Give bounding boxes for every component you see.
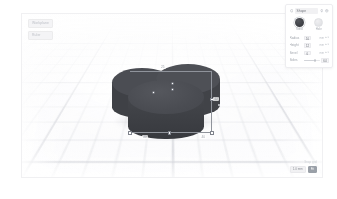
shape-icon bbox=[290, 9, 294, 13]
snap-unit-button[interactable]: 1.0 mm bbox=[290, 166, 306, 173]
param-input-height[interactable]: 12 bbox=[304, 43, 311, 48]
param-input-segments[interactable]: 64 bbox=[321, 58, 328, 63]
help-icon[interactable] bbox=[325, 9, 329, 13]
workplane-surface[interactable] bbox=[22, 14, 322, 20]
app-window: Workplane Ruler bbox=[0, 0, 337, 199]
param-row-radius: Radius 10 mm ▲▼ bbox=[290, 36, 329, 41]
param-unit-bevel: mm bbox=[320, 52, 324, 55]
swatch-hole-label: Hole bbox=[316, 28, 322, 32]
dimension-label-top[interactable]: 25 bbox=[160, 65, 166, 69]
rotate-handle-z[interactable] bbox=[171, 88, 174, 91]
swatch-hole[interactable]: Hole bbox=[310, 18, 327, 32]
viewport-hud-left: Workplane Ruler bbox=[28, 19, 53, 40]
panel-header: Shape bbox=[290, 8, 329, 14]
scale-handle-bottom-left[interactable] bbox=[128, 131, 131, 134]
hole-color-circle[interactable] bbox=[314, 18, 323, 27]
param-row-height: Height 12 mm ▲▼ bbox=[290, 43, 329, 48]
solid-hole-swatches: Solid Hole bbox=[290, 18, 329, 32]
param-input-bevel[interactable]: 0 bbox=[304, 51, 311, 56]
swatch-solid[interactable]: Solid bbox=[291, 18, 308, 32]
param-input-radius[interactable]: 10 bbox=[304, 36, 311, 41]
param-label-segments: Sides bbox=[290, 58, 303, 63]
dimension-label-bottom-left[interactable]: 40 bbox=[142, 135, 148, 139]
lightbulb-icon[interactable] bbox=[320, 9, 324, 13]
height-handle[interactable] bbox=[171, 82, 174, 85]
parameter-list: Radius 10 mm ▲▼ Height 12 mm ▲▼ Bevel 0 … bbox=[290, 36, 329, 64]
param-label-bevel: Bevel bbox=[290, 51, 303, 56]
shape-properties-panel[interactable]: Shape Solid Hol bbox=[285, 4, 333, 68]
selection-edge-right bbox=[211, 71, 212, 133]
swatch-solid-label: Solid bbox=[296, 28, 303, 32]
rotate-handle-x[interactable] bbox=[152, 91, 155, 94]
selection-bounding-box[interactable]: 25 12 40 40 bbox=[130, 71, 212, 133]
selection-edge-top bbox=[130, 71, 212, 72]
snap-grid-label: Snap grid bbox=[304, 160, 317, 164]
param-label-height: Height bbox=[290, 43, 303, 48]
dimension-label-bottom-right[interactable]: 40 bbox=[200, 135, 206, 139]
param-unit-radius: mm bbox=[320, 37, 324, 40]
param-row-segments: Sides 64 bbox=[290, 58, 329, 63]
param-stepper-radius[interactable]: ▲▼ bbox=[326, 36, 329, 40]
dimension-label-right[interactable]: 12 bbox=[213, 97, 219, 101]
scale-handle-bottom-center[interactable] bbox=[168, 131, 171, 134]
param-label-radius: Radius bbox=[290, 36, 303, 41]
solid-color-circle[interactable] bbox=[295, 18, 304, 27]
3d-viewport[interactable]: Workplane Ruler bbox=[21, 13, 323, 178]
param-stepper-bevel[interactable]: ▲▼ bbox=[326, 51, 329, 55]
fit-view-button[interactable]: Fit bbox=[308, 166, 317, 173]
panel-title: Shape bbox=[295, 8, 319, 14]
ruler-label[interactable]: Ruler bbox=[28, 31, 53, 40]
param-row-bevel: Bevel 0 mm ▲▼ bbox=[290, 51, 329, 56]
viewport-hud-bottom-right: Snap grid 1.0 mm Fit bbox=[290, 160, 317, 173]
param-unit-height: mm bbox=[320, 44, 324, 47]
scale-handle-bottom-right[interactable] bbox=[210, 131, 213, 134]
param-slider-segments[interactable] bbox=[304, 58, 320, 63]
param-stepper-height[interactable]: ▲▼ bbox=[326, 43, 329, 47]
slider-fill bbox=[304, 60, 314, 61]
workplane-marker-dot bbox=[218, 104, 220, 106]
workplane-label[interactable]: Workplane bbox=[28, 19, 53, 28]
slider-knob[interactable] bbox=[314, 59, 317, 62]
